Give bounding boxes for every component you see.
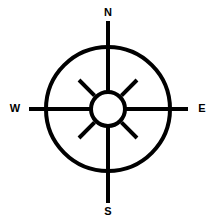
compass-rose-drawing: N S W E <box>0 0 217 224</box>
label-south: S <box>104 205 111 217</box>
label-east: E <box>198 102 205 114</box>
compass-rose-figure: N S W E <box>0 0 217 224</box>
label-west: W <box>10 102 21 114</box>
label-north: N <box>104 6 112 18</box>
